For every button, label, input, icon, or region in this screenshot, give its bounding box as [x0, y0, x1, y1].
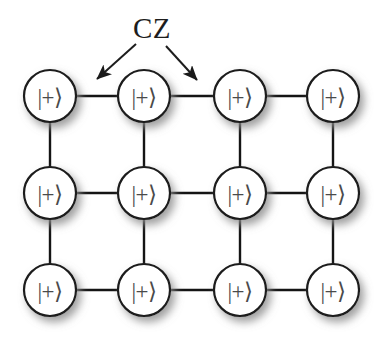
qubit-node-q-r2c3[interactable] [214, 167, 266, 219]
qubit-node-q-r2c4[interactable] [307, 167, 359, 219]
qubit-node-q-r3c2[interactable] [118, 264, 170, 316]
arrow-right-icon [166, 46, 197, 80]
qubit-node-q-r3c3[interactable] [214, 264, 266, 316]
cz-gate-label: CZ [133, 14, 171, 43]
edges-layer [50, 96, 333, 290]
qubit-node-q-r3c4[interactable] [307, 264, 359, 316]
qubit-node-q-r1c2[interactable] [118, 70, 170, 122]
qubit-node-q-r3c1[interactable] [24, 264, 76, 316]
qubit-node-q-r1c3[interactable] [214, 70, 266, 122]
lattice-graphics [0, 0, 385, 338]
qubit-node-q-r1c1[interactable] [24, 70, 76, 122]
qubit-node-q-r2c1[interactable] [24, 167, 76, 219]
qubit-node-q-r1c4[interactable] [307, 70, 359, 122]
qubit-node-q-r2c2[interactable] [118, 167, 170, 219]
cluster-state-figure: |+⟩|+⟩|+⟩|+⟩|+⟩|+⟩|+⟩|+⟩|+⟩|+⟩|+⟩|+⟩ CZ [0, 0, 385, 338]
